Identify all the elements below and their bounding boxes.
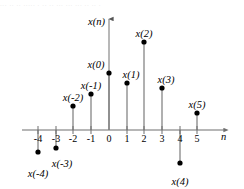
sample-label-xneg4: x(-4) xyxy=(20,168,56,179)
sample-label-x3: x(3) xyxy=(148,74,184,85)
data-point-marker xyxy=(141,39,146,44)
stem-plot-canvas xyxy=(0,0,244,189)
sample-label-xneg1: x(-1) xyxy=(73,80,109,91)
x-of-n-axis-label: x(n) xyxy=(88,16,105,27)
sample-label-x1: x(1) xyxy=(113,69,149,80)
data-point-marker xyxy=(159,85,164,90)
data-point-marker xyxy=(177,160,182,165)
sample-label-x5: x(5) xyxy=(179,99,215,110)
data-point-marker xyxy=(53,145,58,150)
data-point-marker xyxy=(106,70,111,75)
sample-label-xneg3: x(-3) xyxy=(44,158,80,169)
data-point-marker xyxy=(194,110,199,115)
n-axis-label: n xyxy=(221,131,226,142)
sample-label-x4: x(4) xyxy=(162,176,198,187)
sample-label-x2: x(2) xyxy=(126,28,162,39)
tick-label-5: 5 xyxy=(185,133,209,144)
sample-label-x0: x(0) xyxy=(78,59,114,70)
stem-plot-figure: ... .. .. ..... . .. .. ... ... ... .. .… xyxy=(0,0,244,189)
sample-label-xneg2: x(-2) xyxy=(55,92,91,103)
data-point-marker xyxy=(35,149,40,154)
data-point-marker xyxy=(70,103,75,108)
data-point-marker xyxy=(124,80,129,85)
